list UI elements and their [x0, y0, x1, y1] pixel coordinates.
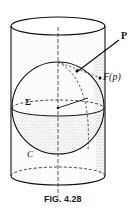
label-fp: F(p) — [103, 72, 121, 82]
center-point — [57, 107, 60, 110]
point-p — [75, 69, 78, 72]
label-sigma: Σ — [25, 98, 31, 107]
figure-caption: FIG. 4.28 — [44, 194, 82, 204]
cylinder-sphere-diagram — [0, 0, 137, 210]
label-p: P — [121, 31, 127, 41]
point-fp — [99, 77, 102, 80]
label-c: C — [27, 150, 33, 159]
